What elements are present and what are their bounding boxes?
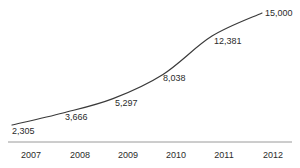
x-tick-2008: 2008 xyxy=(70,150,90,161)
x-tick-2010: 2010 xyxy=(166,150,186,161)
x-tick-2012: 2012 xyxy=(263,150,283,161)
data-label-2009: 5,297 xyxy=(115,98,138,108)
line-chart: 2,305 3,666 5,297 8,038 12,381 15,000 20… xyxy=(0,0,300,168)
data-label-2010: 8,038 xyxy=(163,73,186,83)
data-label-2008: 3,666 xyxy=(65,112,88,122)
x-tick-2011: 2011 xyxy=(214,150,233,161)
chart-plot-area xyxy=(0,0,300,168)
data-label-2011: 12,381 xyxy=(214,36,242,46)
x-tick-2007: 2007 xyxy=(21,150,41,161)
data-label-2007: 2,305 xyxy=(12,126,35,136)
x-tick-2009: 2009 xyxy=(118,150,138,161)
data-label-2012: 15,000 xyxy=(265,8,293,18)
series-line xyxy=(12,13,262,125)
